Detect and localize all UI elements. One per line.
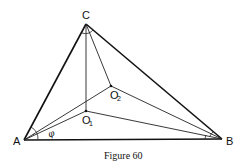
segment-b-o2 [111, 86, 222, 139]
figure-caption: Figure 60 [104, 150, 143, 161]
segment-b-o1 [86, 111, 222, 139]
label-o2-subscript: 2 [117, 95, 121, 102]
side-ab [24, 139, 222, 140]
side-bc [86, 24, 222, 139]
label-o1-subscript: 1 [89, 120, 93, 127]
segment-c-o2 [86, 24, 111, 86]
figure-60-diagram: C A B O 1 O 2 φ Figure 60 [0, 0, 245, 164]
point-o2 [110, 85, 113, 88]
angle-arc-c2 [89, 30, 93, 33]
label-angle-phi: φ [46, 128, 56, 140]
label-a: A [13, 135, 21, 147]
label-b: B [226, 135, 233, 147]
side-ac [24, 24, 86, 140]
segment-a-o2 [24, 86, 111, 140]
label-c: C [82, 9, 90, 21]
angle-arc-c [82, 33, 89, 34]
point-o1 [85, 110, 88, 113]
